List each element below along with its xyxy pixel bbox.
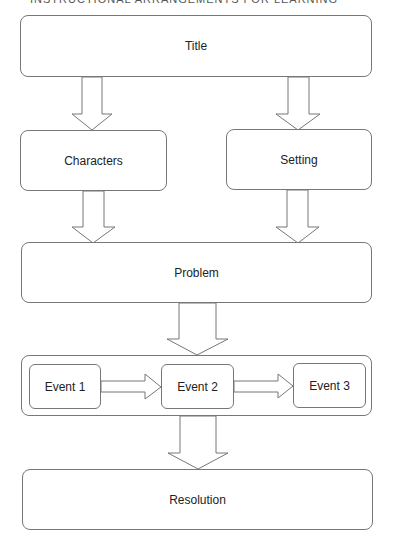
resolution-box: Resolution <box>22 469 373 530</box>
arrow-title-to-setting <box>276 77 320 130</box>
resolution-label: Resolution <box>169 493 226 507</box>
event-3-label: Event 3 <box>309 379 350 393</box>
header-text: INSTRUCTIONAL ARRANGEMENTS FOR LEARNING <box>30 0 338 4</box>
page-header: INSTRUCTIONAL ARRANGEMENTS FOR LEARNING <box>0 0 393 4</box>
problem-label: Problem <box>174 266 219 280</box>
setting-label: Setting <box>280 153 317 167</box>
event-2-label: Event 2 <box>177 380 218 394</box>
arrow-characters-to-problem <box>72 191 115 243</box>
problem-box: Problem <box>21 242 372 303</box>
event-1-label: Event 1 <box>45 380 86 394</box>
characters-box: Characters <box>20 130 167 191</box>
arrow-events-to-resolution <box>168 416 228 469</box>
title-label: Title <box>185 39 207 53</box>
characters-label: Characters <box>64 154 123 168</box>
arrow-title-to-characters <box>72 77 112 130</box>
title-box: Title <box>20 15 372 77</box>
event-2-box: Event 2 <box>161 364 234 409</box>
arrow-setting-to-problem <box>276 190 319 243</box>
event-3-box: Event 3 <box>293 363 366 408</box>
setting-box: Setting <box>226 129 372 190</box>
event-1-box: Event 1 <box>29 364 101 409</box>
arrow-problem-to-events <box>167 303 228 355</box>
